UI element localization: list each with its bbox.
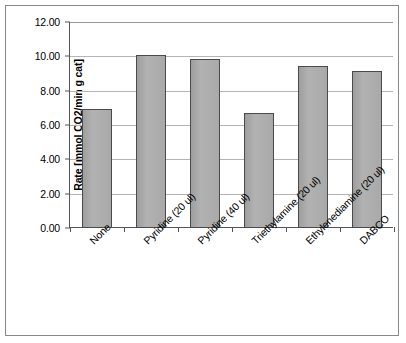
- y-axis-tick-mark: [65, 159, 70, 160]
- x-axis-category-labels: NonePyridine (20 ul)Pyridine (40 ul)Trie…: [69, 230, 399, 340]
- bar-0: [82, 109, 112, 228]
- bar-4: [298, 66, 328, 228]
- y-axis-tick-mark: [65, 22, 70, 23]
- y-axis-tick-label: 8.00: [14, 85, 60, 97]
- gridline: [70, 56, 393, 57]
- y-axis-tick-mark: [65, 56, 70, 57]
- bar-1: [136, 55, 166, 228]
- chart-frame: Rate [mmol CO2/min g cat] 12.0010.008.00…: [5, 5, 399, 336]
- y-axis-tick-mark: [65, 193, 70, 194]
- bar-2: [190, 59, 220, 228]
- bar-5: [352, 71, 382, 228]
- y-axis-tick-label: 4.00: [14, 153, 60, 165]
- y-axis-tick-mark: [65, 125, 70, 126]
- gridline: [70, 159, 393, 160]
- gridline: [70, 22, 393, 23]
- y-axis-tick-label: 0.00: [14, 222, 60, 234]
- gridline: [70, 91, 393, 92]
- y-axis-tick-label: 12.00: [14, 16, 60, 28]
- y-axis-tick-label: 2.00: [14, 188, 60, 200]
- bar-3: [244, 113, 274, 228]
- gridline: [70, 125, 393, 126]
- y-axis-tick-label: 6.00: [14, 119, 60, 131]
- y-axis-tick-mark: [65, 90, 70, 91]
- y-axis-tick-label: 10.00: [14, 50, 60, 62]
